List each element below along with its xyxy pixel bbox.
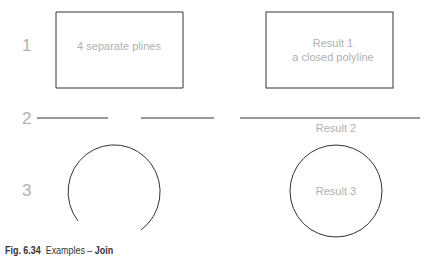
result-1-label: Result 1 <box>313 37 353 49</box>
closed-polyline-rectangle <box>266 12 393 88</box>
row-number-3: 3 <box>22 181 31 200</box>
result-3-label: Result 3 <box>316 185 356 197</box>
figure-number: Fig. 6.34 <box>5 244 41 256</box>
row-number-1: 1 <box>22 36 31 55</box>
join-examples-diagram: 1 2 3 4 separate plines Result 1 a close… <box>0 0 438 260</box>
caption-text: Examples – <box>46 244 93 256</box>
caption-command: Join <box>95 244 113 256</box>
row-number-2: 2 <box>22 109 31 128</box>
result-2-label: Result 2 <box>316 122 356 134</box>
separate-plines-label: 4 separate plines <box>77 40 161 52</box>
figure-caption: Fig. 6.34 Examples – Join <box>5 244 113 256</box>
open-arc <box>68 145 160 230</box>
result-1-sublabel: a closed polyline <box>292 51 373 63</box>
